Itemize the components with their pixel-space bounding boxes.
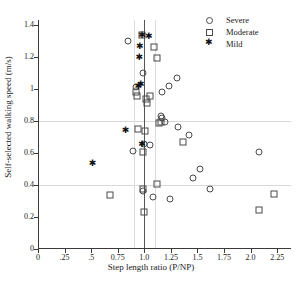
y-axis-title: Self-selected walking speed (m/s) xyxy=(3,0,13,237)
data-point-severe xyxy=(149,193,156,200)
data-point-mild xyxy=(89,160,96,167)
legend-item-severe: Severe xyxy=(206,14,298,26)
data-point-severe xyxy=(190,174,197,181)
data-point-moderate xyxy=(154,181,161,188)
data-point-mild xyxy=(135,53,142,60)
circle-marker-icon xyxy=(206,17,213,24)
data-point-severe xyxy=(140,69,147,76)
data-point-mild xyxy=(145,33,152,40)
data-point-moderate xyxy=(144,100,151,107)
data-point-moderate xyxy=(139,185,146,192)
data-point-severe xyxy=(175,124,182,131)
data-point-severe xyxy=(146,141,153,148)
data-point-mild xyxy=(137,81,144,88)
data-point-moderate xyxy=(142,128,149,135)
data-point-mild xyxy=(138,141,145,148)
legend-item-label: Mild xyxy=(226,38,243,50)
y-axis-line xyxy=(38,20,39,249)
x-axis-title: Step length ratio (P/NP) xyxy=(0,262,302,272)
data-point-severe xyxy=(185,132,192,139)
reference-line-horizontal xyxy=(38,185,291,186)
data-point-moderate xyxy=(179,138,186,145)
data-point-severe xyxy=(129,148,136,155)
legend: SevereModerateMild xyxy=(206,14,298,50)
data-point-severe xyxy=(159,89,166,96)
data-point-severe xyxy=(165,82,172,89)
data-point-moderate xyxy=(107,192,114,199)
data-point-severe xyxy=(166,195,173,202)
scatter-chart-figure: 0.25.50.751.01.251.51.752.02.25 00.20.40… xyxy=(0,0,302,284)
data-point-severe xyxy=(174,74,181,81)
x-tick-label: 2.25 xyxy=(260,253,294,262)
legend-item-label: Severe xyxy=(226,14,249,26)
data-point-moderate xyxy=(140,149,147,156)
asterisk-marker-icon xyxy=(205,39,212,46)
data-point-moderate xyxy=(154,55,161,62)
data-point-severe xyxy=(125,37,132,44)
data-point-severe xyxy=(196,165,203,172)
data-point-mild xyxy=(136,42,143,49)
legend-item-label: Moderate xyxy=(226,26,259,38)
square-marker-icon xyxy=(206,29,213,36)
y-tick-label: 0 xyxy=(6,244,34,253)
data-point-moderate xyxy=(133,93,140,100)
data-point-moderate xyxy=(158,118,165,125)
data-point-moderate xyxy=(134,125,141,132)
plot-area: 0.25.50.751.01.251.51.752.02.25 00.20.40… xyxy=(38,20,291,249)
legend-item-mild: Mild xyxy=(206,38,298,50)
x-axis-line xyxy=(38,248,291,249)
y-tick xyxy=(34,249,38,250)
data-point-moderate xyxy=(150,44,157,51)
legend-item-moderate: Moderate xyxy=(206,26,298,38)
data-point-moderate xyxy=(270,190,277,197)
data-point-moderate xyxy=(141,209,148,216)
data-point-mild xyxy=(122,127,129,134)
data-point-moderate xyxy=(256,206,263,213)
data-point-severe xyxy=(207,185,214,192)
data-point-severe xyxy=(256,149,263,156)
